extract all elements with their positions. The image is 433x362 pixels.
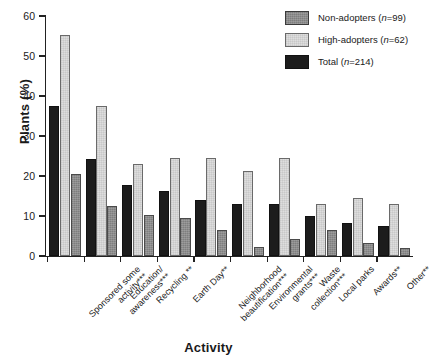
y-axis-tick-label: 10	[5, 210, 35, 222]
legend-label: High-adopters (n=62)	[318, 34, 408, 45]
y-axis-tick	[39, 95, 46, 96]
x-axis-tick	[120, 257, 121, 262]
bar-total-8	[342, 223, 352, 256]
x-axis-tick	[193, 257, 194, 262]
x-axis-tick	[267, 257, 268, 262]
x-axis-tick	[376, 257, 377, 262]
y-axis-tick-label: 0	[5, 250, 35, 262]
bar-high-1	[96, 106, 106, 256]
bar-non-2	[144, 215, 154, 256]
bar-non-4	[217, 230, 227, 256]
bar-total-0	[49, 106, 59, 256]
bar-non-1	[107, 206, 117, 256]
bar-total-4	[195, 200, 205, 256]
y-axis-tick-label: 20	[5, 170, 35, 182]
y-axis-tick-label: 60	[5, 10, 35, 22]
bar-non-0	[71, 174, 81, 256]
legend-label: Total (n=214)	[318, 56, 374, 67]
chart-legend: Non-adopters (n=99)High-adopters (n=62)T…	[285, 8, 415, 74]
x-axis-tick	[47, 257, 48, 262]
bar-total-7	[305, 216, 315, 256]
bar-high-9	[389, 204, 399, 256]
bar-non-7	[327, 230, 337, 256]
y-axis-tick	[39, 55, 46, 56]
bar-high-3	[170, 158, 180, 256]
bar-non-9	[400, 248, 410, 256]
y-axis-tick	[39, 15, 46, 16]
y-axis-tick-label: 40	[5, 90, 35, 102]
x-axis-title: Activity	[0, 340, 417, 355]
y-axis-tick	[39, 135, 46, 136]
bar-non-5	[254, 247, 264, 256]
bar-total-3	[159, 191, 169, 256]
y-axis-tick	[39, 215, 46, 216]
bar-total-1	[86, 159, 96, 256]
legend-item-high: High-adopters (n=62)	[285, 30, 415, 49]
bar-total-2	[122, 185, 132, 256]
y-axis-title: Plants (%)	[17, 42, 32, 182]
bar-high-8	[353, 198, 363, 256]
bar-total-9	[378, 226, 388, 256]
bar-non-8	[363, 243, 373, 256]
legend-item-total: Total (n=214)	[285, 52, 415, 71]
x-axis-tick	[157, 257, 158, 262]
bar-non-6	[290, 239, 300, 256]
legend-item-non: Non-adopters (n=99)	[285, 8, 415, 27]
y-axis-tick	[39, 255, 46, 256]
x-axis-line	[45, 256, 413, 257]
bar-high-6	[279, 158, 289, 256]
x-axis-tick	[230, 257, 231, 262]
x-axis-category-label: Earth Day**	[191, 264, 231, 304]
x-axis-tick	[340, 257, 341, 262]
legend-swatch-total-icon	[285, 55, 309, 69]
x-axis-tick	[303, 257, 304, 262]
x-axis-tick	[84, 257, 85, 262]
bar-non-3	[180, 218, 190, 256]
bar-high-4	[206, 158, 216, 256]
y-axis-tick-label: 50	[5, 50, 35, 62]
legend-swatch-high-icon	[285, 33, 309, 47]
bar-high-5	[243, 171, 253, 256]
y-axis-tick	[39, 175, 46, 176]
bar-high-0	[60, 35, 70, 256]
y-axis-tick-label: 30	[5, 130, 35, 142]
bar-total-6	[269, 204, 279, 256]
legend-label: Non-adopters (n=99)	[318, 12, 406, 23]
bar-total-5	[232, 204, 242, 256]
legend-swatch-non-icon	[285, 11, 309, 25]
bar-high-2	[133, 164, 143, 256]
bar-high-7	[316, 204, 326, 256]
x-axis-category-label: Awards**	[371, 264, 404, 297]
x-axis-category-label: Other**	[405, 264, 433, 292]
